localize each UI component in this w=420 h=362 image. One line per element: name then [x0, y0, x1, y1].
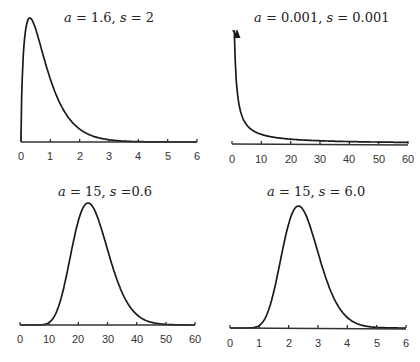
tick-label: 3: [315, 337, 321, 349]
panel-3-density-curve: [20, 203, 195, 325]
tick-label: 20: [72, 333, 84, 345]
panel-2-title: a = 0.001, s = 0.001: [254, 10, 389, 25]
tick-label: 6: [403, 337, 409, 349]
tick-label: 50: [373, 153, 385, 165]
tick-label: 0: [229, 153, 235, 165]
panel-2: a = 0.001, s = 0.001 0 10 20 30 40 50 60: [229, 10, 414, 165]
tick-label: 10: [43, 333, 55, 345]
tick-label: 30: [314, 153, 326, 165]
panel-2-density-curve: [234, 31, 409, 142]
tick-label: 3: [106, 150, 112, 162]
tick-label: 5: [165, 150, 171, 162]
panel-4: a = 15, s = 6.0 0 1 2 3 4 5 6: [227, 184, 409, 349]
tick-label: 6: [194, 150, 200, 162]
tick-label: 0: [18, 150, 24, 162]
panel-4-tick-labels: 0 1 2 3 4 5 6: [227, 337, 409, 349]
tick-label: 40: [343, 153, 355, 165]
panel-4-title: a = 15, s = 6.0: [267, 184, 365, 199]
tick-label: 20: [285, 153, 297, 165]
panel-1-density-curve: [21, 18, 197, 142]
tick-label: 30: [102, 333, 114, 345]
tick-label: 40: [131, 333, 143, 345]
panel-1-title: a = 1.6, s = 2: [64, 10, 154, 25]
panel-3-title: a = 15, s =0.6: [58, 184, 152, 199]
panel-4-density-curve: [230, 206, 406, 328]
panel-3-tick-labels: 0 10 20 30 40 50 60: [17, 333, 201, 345]
tick-label: 50: [160, 333, 172, 345]
panel-3: a = 15, s =0.6 0 10 20 30 40 50 60: [17, 184, 201, 345]
tick-label: 5: [374, 337, 380, 349]
tick-label: 10: [255, 153, 267, 165]
tick-label: 60: [402, 153, 414, 165]
panel-1: a = 1.6, s = 2 0 1 2 3 4 5 6: [18, 10, 200, 162]
tick-label: 4: [344, 337, 350, 349]
gamma-density-figure: a = 1.6, s = 2 0 1 2 3 4 5 6 a = 0.001, …: [0, 0, 420, 362]
tick-label: 1: [47, 150, 53, 162]
panel-2-x-axis: [232, 144, 408, 145]
tick-label: 1: [256, 337, 262, 349]
panel-2-tick-labels: 0 10 20 30 40 50 60: [229, 153, 414, 165]
tick-label: 60: [189, 333, 201, 345]
tick-label: 2: [77, 150, 83, 162]
tick-label: 0: [227, 337, 233, 349]
tick-label: 4: [135, 150, 141, 162]
tick-label: 2: [286, 337, 292, 349]
panel-1-tick-labels: 0 1 2 3 4 5 6: [18, 150, 200, 162]
tick-label: 0: [17, 333, 23, 345]
